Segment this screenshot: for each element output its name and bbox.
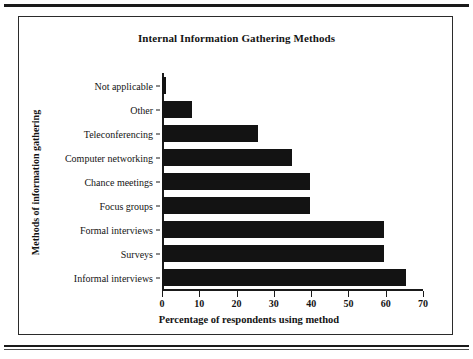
y-axis-tick	[156, 229, 160, 230]
x-axis-tick-label: 30	[269, 298, 279, 309]
x-axis-tick	[199, 291, 200, 297]
y-axis-tick	[156, 277, 160, 278]
x-axis-title: Percentage of respondents using method	[59, 314, 439, 325]
bar-row: Focus groups	[162, 197, 421, 214]
x-axis-ticks: 010203040506070	[162, 291, 423, 315]
x-axis-tick	[348, 291, 349, 297]
bar-series: Not applicableOtherTeleconferencingCompu…	[162, 75, 421, 289]
x-axis-tick-label: 20	[232, 298, 242, 309]
x-axis-tick	[162, 291, 163, 297]
category-label: Computer networking	[65, 152, 153, 163]
bar-row: Informal interviews	[162, 269, 421, 286]
category-label: Informal interviews	[74, 272, 153, 283]
bar-row: Not applicable	[162, 77, 421, 94]
category-label: Teleconferencing	[84, 128, 153, 139]
x-axis-tick	[386, 291, 387, 297]
y-axis-tick	[156, 205, 160, 206]
bar	[162, 101, 192, 118]
y-axis-tick	[156, 181, 160, 182]
category-label: Chance meetings	[84, 176, 153, 187]
x-axis-tick-label: 70	[418, 298, 428, 309]
chart-frame: Internal Information Gathering Methods M…	[18, 16, 453, 335]
x-axis-tick-label: 50	[343, 298, 353, 309]
category-label: Not applicable	[94, 80, 153, 91]
bar-row: Other	[162, 101, 421, 118]
bar	[162, 269, 406, 286]
bar-row: Surveys	[162, 245, 421, 262]
x-axis-tick	[237, 291, 238, 297]
bar	[162, 149, 292, 166]
bar	[162, 197, 310, 214]
x-axis-tick-label: 60	[381, 298, 391, 309]
page-rule-bottom-secondary	[4, 349, 469, 350]
x-axis-tick	[274, 291, 275, 297]
page-rule-top	[4, 4, 469, 7]
bar	[162, 173, 310, 190]
x-axis-tick-label: 0	[160, 298, 165, 309]
chart-title: Internal Information Gathering Methods	[19, 32, 454, 44]
page-rule-bottom	[4, 345, 469, 347]
category-label: Formal interviews	[80, 224, 153, 235]
category-label: Focus groups	[99, 200, 153, 211]
x-axis-tick	[311, 291, 312, 297]
bar-row: Formal interviews	[162, 221, 421, 238]
y-axis-tick	[156, 133, 160, 134]
bar	[162, 77, 166, 94]
bar	[162, 221, 384, 238]
bar-row: Teleconferencing	[162, 125, 421, 142]
x-axis-tick-label: 40	[306, 298, 316, 309]
bar	[162, 125, 258, 142]
bar-row: Computer networking	[162, 149, 421, 166]
y-axis-tick	[156, 157, 160, 158]
plot-area: Not applicableOtherTeleconferencingCompu…	[162, 75, 421, 289]
y-axis-tick	[156, 109, 160, 110]
y-axis-tick	[156, 253, 160, 254]
bar	[162, 245, 384, 262]
category-label: Surveys	[121, 248, 153, 259]
x-axis-tick-label: 10	[194, 298, 204, 309]
y-axis-title: Methods of information gathering	[30, 83, 41, 283]
x-axis-tick	[423, 291, 424, 297]
bar-row: Chance meetings	[162, 173, 421, 190]
category-label: Other	[130, 104, 153, 115]
y-axis-tick	[156, 85, 160, 86]
